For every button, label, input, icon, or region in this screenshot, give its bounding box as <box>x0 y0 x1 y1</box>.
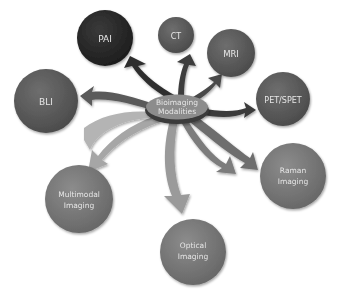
node-label: MRI <box>223 49 239 59</box>
node-label: BLI <box>39 97 53 107</box>
node-optical: Optical Imaging <box>160 219 226 285</box>
node-raman: Raman Imaging <box>260 143 326 209</box>
node-ct: CT <box>158 17 194 53</box>
node-pai: PAI <box>77 10 133 66</box>
caption-fragment <box>4 281 304 287</box>
node-label: CT <box>171 32 182 41</box>
arrow-to-optical <box>164 120 190 214</box>
arrow-to-ct <box>177 54 196 98</box>
node-bli: BLI <box>14 69 78 133</box>
node-label: Optical <box>180 241 207 250</box>
node-label: Imaging <box>278 177 309 186</box>
center-label: Modalities <box>158 107 196 116</box>
node-label: Raman <box>280 166 307 175</box>
node-label: Multimodal <box>58 190 100 199</box>
node-label: PET/SPET <box>264 96 301 105</box>
bioimaging-diagram: PAI CT MRI BLI PET/SPET Raman Imaging Mu… <box>0 0 340 291</box>
center-hub: Bioimaging Modalities <box>145 95 209 125</box>
center-label: Bioimaging <box>156 98 198 107</box>
node-petspet: PET/SPET <box>256 72 310 126</box>
arrow-to-pai <box>124 56 176 100</box>
node-label: PAI <box>98 34 112 44</box>
node-label: Imaging <box>178 252 209 261</box>
node-multimodal: Multimodal Imaging <box>45 165 113 233</box>
node-label: Imaging <box>64 201 95 210</box>
node-mri: MRI <box>207 29 255 77</box>
